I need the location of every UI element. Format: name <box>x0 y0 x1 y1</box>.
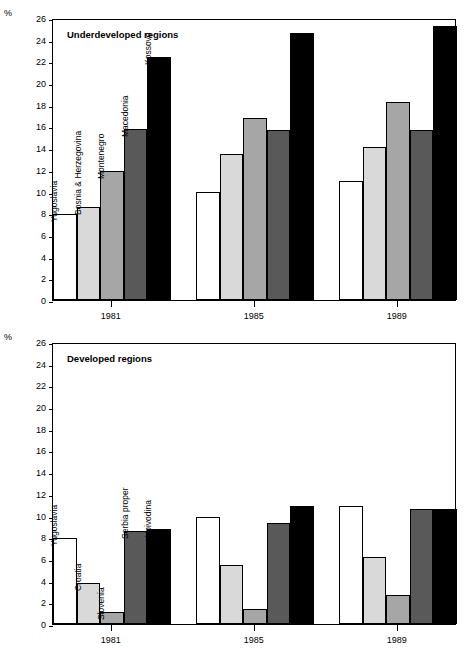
bar-1985-montenegro <box>243 118 267 300</box>
bar-1985-bosnia-herzegovina <box>220 154 244 300</box>
bar-1981-serbia-proper <box>124 531 148 624</box>
x-axis-label-1981: 1981 <box>81 636 141 645</box>
bar-1989-montenegro <box>386 102 410 300</box>
x-tickmark-1989 <box>397 625 398 631</box>
bar-1985-macedonia <box>267 130 291 300</box>
y-tickmark-20 <box>49 85 53 86</box>
series-label-macedonia: Macedonia <box>121 95 130 137</box>
series-label-slovenia: Slovenia <box>97 587 106 620</box>
y-tickmark-26 <box>49 344 53 345</box>
y-tickmark-18 <box>49 431 53 432</box>
x-tickmark-1981 <box>111 625 112 631</box>
y-axis-tick-20: 20 <box>22 404 46 413</box>
bar-1989-kossovo <box>433 26 457 300</box>
y-axis-tick-8: 8 <box>22 210 46 219</box>
bar-1985-slovenia <box>243 609 267 624</box>
y-axis-tick-22: 22 <box>22 58 46 67</box>
x-tickmark-1989 <box>397 301 398 307</box>
y-tickmark-14 <box>49 474 53 475</box>
series-label-kossovo: Kossovo <box>144 32 153 65</box>
series-label-voivodina: Voivodina <box>144 500 153 537</box>
y-axis-tick-12: 12 <box>22 167 46 176</box>
chart-panel-developed: % 02468101214161820222426 Developed regi… <box>0 324 465 648</box>
y-axis-tick-14: 14 <box>22 145 46 154</box>
y-tickmark-18 <box>49 107 53 108</box>
y-axis-tick-0: 0 <box>22 297 46 306</box>
y-tickmark-24 <box>49 366 53 367</box>
y-tickmark-26 <box>49 20 53 21</box>
series-label-montenegro: Montenegro <box>97 134 106 179</box>
bar-1985-voivodina <box>290 506 314 624</box>
x-axis-label-1985: 1985 <box>224 636 284 645</box>
y-axis-tick-10: 10 <box>22 189 46 198</box>
y-tickmark-22 <box>49 63 53 64</box>
bar-1981-bosnia-herzegovina <box>77 207 101 300</box>
bar-1989-macedonia <box>410 130 434 300</box>
y-axis-tick-6: 6 <box>22 556 46 565</box>
y-axis-tick-18: 18 <box>22 102 46 111</box>
bar-1989-slovenia <box>386 595 410 624</box>
bar-1985-serbia-proper <box>267 523 291 624</box>
y-axis-tick-24: 24 <box>22 37 46 46</box>
x-axis-label-1981: 1981 <box>81 312 141 321</box>
bar-1981-montenegro <box>100 171 124 300</box>
x-tickmark-1985 <box>254 625 255 631</box>
series-label-yugoslavia: Yugoslavia <box>50 181 59 222</box>
series-label-croatia: Croatia <box>74 563 83 590</box>
plot-area-underdeveloped: Underdeveloped regions YugoslaviaBosnia … <box>52 19 456 301</box>
y-axis-tick-12: 12 <box>22 491 46 500</box>
y-tickmark-22 <box>49 387 53 388</box>
y-axis-tick-20: 20 <box>22 80 46 89</box>
bar-1989-bosnia-herzegovina <box>363 147 387 300</box>
y-tickmark-12 <box>49 496 53 497</box>
y-axis-tick-14: 14 <box>22 469 46 478</box>
y-axis-tick-16: 16 <box>22 123 46 132</box>
bar-1989-yugoslavia <box>339 181 363 300</box>
y-axis-tick-22: 22 <box>22 382 46 391</box>
y-tickmark-16 <box>49 128 53 129</box>
y-axis-tick-10: 10 <box>22 513 46 522</box>
y-tickmark-20 <box>49 409 53 410</box>
y-axis-unit-label: % <box>4 9 12 18</box>
y-axis-tick-26: 26 <box>22 339 46 348</box>
plot-area-developed: Developed regions YugoslaviaCroatiaSlove… <box>52 343 456 625</box>
bar-1981-kossovo <box>147 57 171 300</box>
y-tickmark-0 <box>49 626 53 627</box>
x-axis-label-1989: 1989 <box>367 312 427 321</box>
y-axis-tick-0: 0 <box>22 621 46 630</box>
bar-1989-serbia-proper <box>410 509 434 624</box>
y-axis-tick-18: 18 <box>22 426 46 435</box>
bar-1981-voivodina <box>147 529 171 624</box>
x-axis-label-1985: 1985 <box>224 312 284 321</box>
y-tickmark-12 <box>49 172 53 173</box>
y-axis-tick-6: 6 <box>22 232 46 241</box>
y-axis-tick-8: 8 <box>22 534 46 543</box>
bar-1981-macedonia <box>124 129 148 300</box>
bar-1985-kossovo <box>290 33 314 300</box>
y-axis-tick-labels: 02468101214161820222426 <box>20 0 46 324</box>
x-tickmark-1985 <box>254 301 255 307</box>
plot-title-developed: Developed regions <box>67 354 152 364</box>
bar-1981-yugoslavia <box>53 214 77 300</box>
y-axis-tick-labels: 02468101214161820222426 <box>20 324 46 648</box>
series-label-bosnia-herzegovina: Bosnia & Herzegovina <box>74 131 83 215</box>
x-tickmark-1981 <box>111 301 112 307</box>
y-tickmark-16 <box>49 452 53 453</box>
series-label-serbia-proper: Serbia proper <box>121 487 130 539</box>
y-tickmark-24 <box>49 42 53 43</box>
y-axis-tick-4: 4 <box>22 254 46 263</box>
bar-1989-yugoslavia <box>339 506 363 624</box>
series-label-yugoslavia: Yugoslavia <box>50 505 59 546</box>
bar-1985-yugoslavia <box>196 192 220 300</box>
y-axis-tick-26: 26 <box>22 15 46 24</box>
y-axis-tick-16: 16 <box>22 447 46 456</box>
y-axis-tick-24: 24 <box>22 361 46 370</box>
bar-1985-yugoslavia <box>196 517 220 624</box>
bar-1989-voivodina <box>433 509 457 624</box>
x-axis-label-1989: 1989 <box>367 636 427 645</box>
y-tickmark-0 <box>49 302 53 303</box>
chart-panel-underdeveloped: % 02468101214161820222426 Underdeveloped… <box>0 0 465 324</box>
bar-1985-croatia <box>220 565 244 624</box>
plot-title-underdeveloped: Underdeveloped regions <box>67 30 178 40</box>
y-axis-tick-4: 4 <box>22 578 46 587</box>
